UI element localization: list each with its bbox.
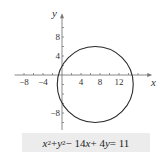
- circle-graph: −8−4481284−8 x y: [0, 0, 161, 130]
- y-axis-label: y: [51, 7, 57, 19]
- x-axis-label: x: [150, 76, 156, 88]
- caption-op: + 4: [90, 137, 104, 149]
- svg-text:12: 12: [115, 77, 124, 87]
- svg-text:4: 4: [56, 51, 61, 61]
- axes: [15, 13, 153, 130]
- svg-text:−4: −4: [38, 77, 48, 87]
- caption-var-x: x: [43, 137, 48, 149]
- equation-caption: x2 + y2 − 14x + 4y = 11: [22, 133, 150, 152]
- svg-text:−8: −8: [50, 108, 60, 118]
- caption-op: − 14: [66, 137, 86, 149]
- svg-text:8: 8: [98, 77, 103, 87]
- svg-text:−8: −8: [19, 77, 29, 87]
- svg-text:4: 4: [79, 77, 84, 87]
- caption-op: = 11: [110, 137, 130, 149]
- svg-text:8: 8: [56, 32, 61, 42]
